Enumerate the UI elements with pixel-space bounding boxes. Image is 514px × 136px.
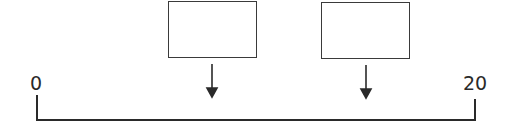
arrow-down-icon <box>207 64 217 97</box>
arrow-down-icon <box>361 65 371 98</box>
number-line <box>0 0 514 136</box>
number-line-bracket <box>37 95 475 120</box>
